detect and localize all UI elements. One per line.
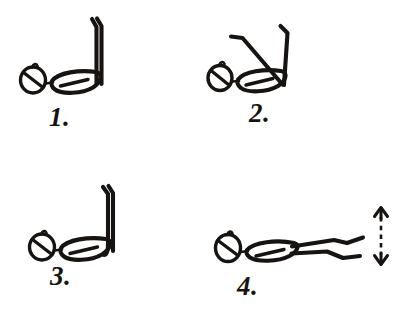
sketch-canvas: 1. 2. [0,0,406,323]
stick-figure-step-2 [203,0,406,162]
step-number-3: 3. [50,263,71,290]
step-number-1: 1. [49,104,70,131]
step-panel-2: 2. [203,0,406,161]
up-down-arrow-icon [366,205,396,267]
legs-horizontal [292,238,364,259]
stick-figure-step-3 [0,161,203,323]
torso [246,241,297,260]
head-icon [208,62,232,90]
legs-vertical-up [92,19,102,85]
torso-inner-line [246,79,273,86]
step-number-4: 4. [237,273,258,300]
head-icon [21,64,46,93]
step-panel-1: 1. [0,0,203,161]
step-number-2: 2. [249,100,270,127]
torso [51,71,100,93]
torso-inner-line [70,247,98,254]
step-panel-4: 4. [203,161,406,323]
step-panel-3: 3. [0,161,203,323]
legs-vertical-up [103,186,113,255]
stick-figure-step-1 [0,0,203,162]
head-icon [216,232,241,262]
torso-inner-line [61,80,89,87]
head-icon [30,231,55,260]
torso-inner-line [256,250,284,257]
